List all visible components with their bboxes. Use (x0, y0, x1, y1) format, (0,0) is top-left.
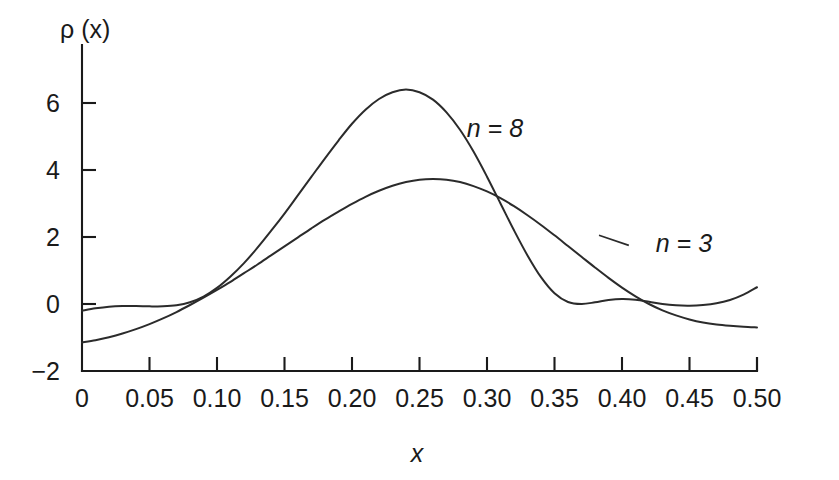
y-tick-label: 4 (46, 156, 60, 184)
figure-container: 00.050.100.150.200.250.300.350.400.450.5… (0, 0, 839, 480)
x-tick-label: 0.05 (125, 384, 174, 412)
axes-group (82, 45, 757, 371)
x-tick-label: 0.15 (260, 384, 309, 412)
y-tick-label: 6 (46, 89, 60, 117)
x-tick-label: 0.20 (328, 384, 377, 412)
x-axis-tick-labels: 00.050.100.150.200.250.300.350.400.450.5… (75, 384, 781, 412)
data-curve (82, 179, 757, 342)
chart-canvas: 00.050.100.150.200.250.300.350.400.450.5… (0, 0, 839, 480)
data-curve (82, 90, 757, 311)
series-annotation-label: n = 3 (656, 229, 712, 257)
series-annotation-label: n = 8 (467, 114, 523, 142)
y-tick-label: −2 (31, 357, 60, 385)
x-tick-label: 0 (75, 384, 89, 412)
n3-leader-line (599, 235, 629, 245)
series-annotations-group: n = 8n = 3 (467, 114, 712, 258)
x-tick-label: 0.25 (395, 384, 444, 412)
x-tick-label: 0.45 (665, 384, 714, 412)
x-axis-label: x (410, 439, 425, 467)
x-tick-label: 0.30 (463, 384, 512, 412)
data-curves-group (82, 90, 757, 343)
y-tick-label: 0 (46, 290, 60, 318)
x-tick-label: 0.40 (598, 384, 647, 412)
annotation-leader-lines (599, 235, 629, 245)
x-tick-label: 0.35 (530, 384, 579, 412)
y-axis-tick-labels: 6420−2 (31, 89, 60, 385)
y-tick-label: 2 (46, 223, 60, 251)
y-axis-label: ρ (x) (60, 15, 110, 43)
x-tick-label: 0.10 (193, 384, 242, 412)
x-tick-label: 0.50 (733, 384, 782, 412)
